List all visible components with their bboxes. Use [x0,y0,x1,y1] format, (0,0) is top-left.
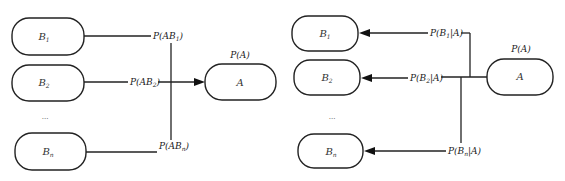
node-a: A [205,64,276,100]
arrowhead-icon [194,78,205,86]
node-b2: B2 [12,65,84,101]
conditional-probability-diagram: B1 B2 ... Bn [292,16,553,168]
node-b2-right: B2 [294,60,360,95]
edge-label-p-bn-given-a: P(Bn|A) [447,146,482,157]
node-b1: B1 [12,18,84,55]
edge-label-p-ab1: P(AB1) [152,31,184,42]
ellipsis-right: ... [329,111,336,121]
edge-label-p-b1-given-a: P(B1|A) [429,28,464,39]
arrowhead-icon [364,147,375,155]
node-bn: Bn [15,133,86,170]
arrowhead-icon [361,74,372,82]
svg-text:A: A [515,71,523,82]
ellipsis: ... [42,111,49,121]
prob-label-p-a: P(A) [229,50,250,60]
diagram-canvas: B1 B2 ... Bn P(AB1) [0,0,565,181]
svg-text:A: A [235,77,243,88]
edge-label-p-abn: P(ABn) [158,141,190,152]
node-a-right: A [487,59,553,95]
node-b1-right: B1 [292,16,358,51]
joint-probability-diagram: B1 B2 ... Bn P(AB1) [12,18,276,170]
edge-label-p-b2-given-a: P(B2|A) [409,73,444,84]
node-bn-right: Bn [298,134,363,168]
edge-label-p-ab2: P(AB2) [129,77,161,88]
arrowhead-icon [359,29,370,37]
prob-label-p-a-right: P(A) [510,44,531,54]
